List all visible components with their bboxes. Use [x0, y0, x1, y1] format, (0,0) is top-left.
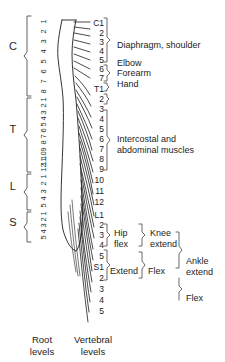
vertebral-level-L1: L1 — [89, 211, 104, 220]
root-level-C6: 6 — [40, 67, 48, 76]
label-knee-extend-line1: Knee — [150, 228, 171, 239]
vertebral-level-3: 3 — [89, 231, 104, 240]
label-ankle-extend-line2: extend — [186, 267, 213, 278]
vertebral-level-2: 2 — [89, 221, 104, 230]
vertebral-level-12: 12 — [89, 198, 104, 207]
bracket-flex-mid — [139, 252, 145, 278]
label-hand: Hand — [117, 79, 139, 90]
section-letter-lumbar: L — [6, 180, 20, 192]
bracket-knee-extend — [139, 224, 145, 246]
vertebral-level-7: 7 — [89, 145, 104, 154]
vertebral-level-4: 4 — [89, 241, 104, 250]
bracket-elbow — [104, 65, 110, 81]
bracket-flex-low — [179, 278, 182, 300]
root-level-C7: 7 — [40, 77, 48, 86]
bracket-forearm — [104, 83, 109, 91]
cauda-equina-strands — [68, 200, 80, 276]
label-flex-mid: Flex — [148, 266, 165, 277]
label-ankle-extend-line1: Ankle — [186, 256, 209, 267]
vertebral-level-number-column: C1234567T123456789101112L12345S12345 — [86, 15, 104, 335]
label-extend: Extend — [110, 266, 138, 277]
bracket-hip-flex — [104, 224, 110, 246]
bracket-ankle-extend — [176, 232, 182, 268]
label-hip-flex-line2: flex — [114, 239, 128, 250]
label-forearm: Forearm — [117, 68, 151, 79]
bracket-intercostal-abdominal — [104, 110, 110, 170]
caption-root-levels: Root levels — [16, 334, 68, 358]
vertebral-level-11: 11 — [89, 187, 104, 196]
label-flex-low: Flex — [186, 293, 203, 304]
vertebral-level-9: 9 — [89, 165, 104, 174]
vertebral-level-5: 5 — [89, 307, 104, 316]
intercostal-bracket-group — [103, 108, 117, 218]
vertebral-level-8: 8 — [89, 155, 104, 164]
spinal-cord-diagram: C T L S 12345678123456789101112123451234… — [0, 0, 225, 362]
label-knee-extend-line2: extend — [150, 239, 177, 250]
caption-vertebral-levels: Vertebral levels — [62, 334, 124, 358]
vertebral-level-7: 7 — [89, 74, 104, 83]
vertebral-level-5: 5 — [89, 252, 104, 261]
root-level-C1: 1 — [40, 17, 48, 26]
vertebral-level-10: 10 — [89, 176, 104, 185]
vertebral-level-6: 6 — [89, 135, 104, 144]
root-level-C2: 2 — [40, 27, 48, 36]
vertebral-level-2: 2 — [89, 274, 104, 283]
vertebral-level-3: 3 — [89, 105, 104, 114]
vertebral-level-4: 4 — [89, 296, 104, 305]
label-elbow: Elbow — [117, 58, 142, 69]
vertebral-level-S1: S1 — [89, 263, 104, 272]
bracket-hand — [104, 94, 109, 104]
root-level-C3: 3 — [40, 37, 48, 46]
label-diaphragm-shoulder: Diaphragm, shoulder — [117, 40, 201, 51]
section-letter-thoracic: T — [6, 123, 20, 135]
section-letter-sacral: S — [6, 216, 20, 228]
root-level-C5: 5 — [40, 57, 48, 66]
root-level-T12: 12 — [40, 163, 48, 172]
label-hip-flex-line1: Hip — [114, 228, 128, 239]
vertebral-level-4: 4 — [89, 115, 104, 124]
root-level-number-column: 123456781234567891011121234512345 — [30, 14, 42, 250]
vertebral-level-T1: T1 — [89, 85, 104, 94]
label-intercostal-abdominal-line1: Intercostal and — [117, 134, 176, 145]
bracket-diaphragm-shoulder — [104, 18, 110, 62]
root-level-S5: 5 — [40, 233, 48, 242]
vertebral-level-2: 2 — [89, 95, 104, 104]
label-intercostal-abdominal-line2: abdominal muscles — [117, 145, 194, 156]
vertebral-level-3: 3 — [89, 285, 104, 294]
vertebral-level-C1: C1 — [89, 19, 104, 28]
vertebral-level-5: 5 — [89, 125, 104, 134]
section-letter-cervical: C — [6, 40, 20, 52]
root-level-C4: 4 — [40, 47, 48, 56]
